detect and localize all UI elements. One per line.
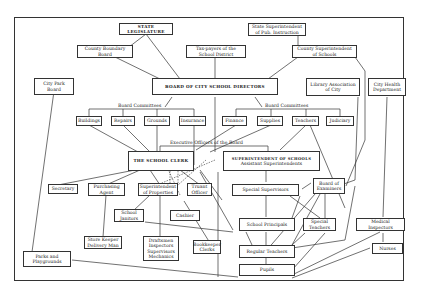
node-finance: Finance [222, 116, 247, 126]
node-special-supervisors: Special Supervisors [232, 184, 299, 196]
node-nurses: Nurses [372, 243, 403, 254]
node-cashier: Cashier [170, 210, 200, 221]
node-buildings: Buildings [76, 116, 102, 126]
node-school-clerk: THE SCHOOL CLERK [128, 151, 194, 171]
node-secretary: Secretary [48, 184, 78, 194]
node-city-park-board: City Park Board [34, 78, 74, 95]
node-supplies: Supplies [257, 116, 283, 126]
node-truant-officer: Truant Officer [187, 183, 212, 196]
label-executive-officers: Executive Officers of the Board [170, 140, 243, 145]
node-tax-payers: Tax-payers of the School District [186, 45, 246, 58]
node-board-of-examiners: Board of Examiners [313, 178, 345, 194]
label-board-committees-left: Board Committees [118, 103, 161, 108]
node-insurance: Insurance [179, 116, 206, 126]
node-library-association: Library Association of City [306, 78, 360, 96]
node-parks-playgrounds: Parks and Playgrounds [23, 251, 71, 267]
node-superintendent-of-schools: SUPERINTENDENT OF SCHOOLS Assistant Supe… [223, 151, 320, 171]
node-state-legislature: STATE LEGISLATURE [119, 23, 173, 35]
org-chart: STATE LEGISLATURE State Superintendent o… [0, 0, 429, 289]
node-county-boundary-board: County Boundary Board [77, 45, 133, 58]
node-bookkeeper: Bookkeeper Clerks [193, 240, 221, 254]
node-school-principals: School Principals [239, 218, 295, 231]
node-judiciary: Judiciary [326, 116, 354, 126]
node-superintendent-of-properties: Superintendent of Properties [138, 183, 178, 196]
node-special-teachers: Special Teachers [303, 218, 336, 231]
node-regular-teachers: Regular Teachers [239, 245, 295, 258]
assistant-superintendents-label: Assistant Superintendents [241, 161, 302, 166]
node-board-of-directors: BOARD OF CITY SCHOOL DIRECTORS [152, 78, 278, 95]
label-board-committees-right: Board Committees [265, 103, 308, 108]
node-school-janitors: School Janitors [114, 209, 144, 222]
node-store-keeper: Store Keeper Delivery Man [84, 236, 122, 249]
node-teachers: Teachers [292, 116, 319, 126]
node-medical-inspectors: Medical Inspectors [356, 218, 405, 231]
node-county-superintendent: County Superintendent of Schools [292, 45, 357, 58]
node-city-health-department: City Health Department [368, 78, 406, 96]
node-purchasing-agent: Purchasing Agent [88, 183, 125, 196]
node-pupils: Pupils [239, 264, 295, 276]
node-repairs: Repairs [111, 116, 135, 126]
node-grounds: Grounds [144, 116, 170, 126]
node-state-superintendent: State Superintendent of Pub. Instruction [248, 23, 306, 36]
node-draftsmen: Draftsmen Inspectors Supervisors Mechani… [143, 236, 179, 261]
